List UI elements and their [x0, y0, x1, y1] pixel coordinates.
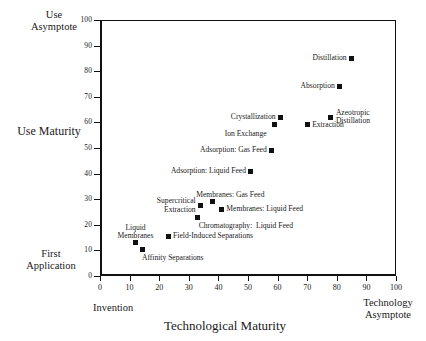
data-point-label: Absorption: [301, 82, 335, 91]
data-point: [248, 169, 253, 174]
y-axis-tick: [94, 250, 100, 251]
data-point-label: Crystallization: [231, 113, 276, 122]
x-axis-tick: [189, 276, 190, 281]
data-point-label: Ion Exchange: [225, 130, 267, 139]
x-axis-tick-label: 80: [324, 283, 350, 292]
x-axis-tick-label: 60: [265, 283, 291, 292]
y-axis-tick-label: 0: [68, 272, 92, 280]
data-point-label: Chromatography: Liquid Feed: [199, 222, 293, 231]
x-axis-tick: [218, 276, 219, 281]
data-point-label: Membranes: Liquid Feed: [226, 205, 303, 214]
x-axis-tick: [159, 276, 160, 281]
data-point: [278, 115, 283, 120]
data-point: [195, 215, 200, 220]
data-point-label: Membranes: Gas Feed: [196, 191, 264, 200]
x-axis-right-caption: TechnologyAsymptote: [352, 297, 424, 320]
data-point-label: SupercriticalExtraction: [157, 197, 196, 214]
y-axis-tick-label: 30: [68, 195, 92, 203]
scatter-chart: 0102030405060708090100 01020304050607080…: [0, 0, 426, 341]
data-point-label: Field-Induced Separations: [173, 232, 253, 241]
data-point: [337, 84, 342, 89]
y-axis-tick: [94, 97, 100, 98]
y-axis-title: Use Maturity: [6, 124, 92, 139]
data-point: [272, 122, 277, 127]
x-axis-tick: [307, 276, 308, 281]
x-axis-tick-label: 40: [205, 283, 231, 292]
data-point-label: Adsorption: Gas Feed: [200, 146, 267, 155]
data-point: [305, 122, 310, 127]
data-point: [133, 240, 138, 245]
data-point: [210, 199, 215, 204]
y-axis-top-caption: UseAsymptote: [20, 9, 88, 32]
data-point: [140, 247, 145, 252]
y-axis-tick: [94, 148, 100, 149]
data-point: [349, 56, 354, 61]
y-axis-tick: [94, 46, 100, 47]
x-axis-tick-label: 90: [353, 283, 379, 292]
data-point: [269, 148, 274, 153]
x-axis-tick-label: 20: [146, 283, 172, 292]
y-axis-bottom-caption: FirstApplication: [14, 248, 88, 271]
data-point-label: Distillation: [312, 54, 346, 63]
x-axis-title: Technological Maturity: [110, 318, 340, 334]
x-axis-tick-label: 50: [235, 283, 261, 292]
y-axis-tick-label: 20: [68, 221, 92, 229]
x-axis-tick: [100, 276, 101, 281]
x-axis-tick: [248, 276, 249, 281]
x-axis-tick-label: 0: [87, 283, 113, 292]
x-axis-tick: [396, 276, 397, 281]
x-axis-tick: [337, 276, 338, 281]
data-point-label: Affinity Separations: [142, 254, 204, 263]
y-axis-tick: [94, 20, 100, 21]
y-axis-tick: [94, 122, 100, 123]
y-axis-tick-label: 40: [68, 170, 92, 178]
x-axis-tick: [278, 276, 279, 281]
x-axis-tick: [366, 276, 367, 281]
x-axis-tick-label: 30: [176, 283, 202, 292]
x-axis-tick: [130, 276, 131, 281]
y-axis-tick: [94, 174, 100, 175]
data-point: [198, 203, 203, 208]
x-axis-tick-label: 70: [294, 283, 320, 292]
data-point-label: Adsorption: Liquid Feed: [171, 167, 246, 176]
x-axis-tick-label: 10: [117, 283, 143, 292]
y-axis-tick: [94, 71, 100, 72]
data-point-label: LiquidMembranes: [100, 224, 172, 241]
data-point: [219, 207, 224, 212]
y-axis-tick: [94, 199, 100, 200]
y-axis-tick-label: 80: [68, 67, 92, 75]
y-axis-tick-label: 50: [68, 144, 92, 152]
data-point-label: Extraction: [312, 121, 344, 130]
y-axis-tick-label: 70: [68, 93, 92, 101]
x-axis-left-caption: Invention: [85, 302, 169, 314]
x-axis-tick-label: 100: [383, 283, 409, 292]
y-axis-tick-label: 90: [68, 42, 92, 50]
